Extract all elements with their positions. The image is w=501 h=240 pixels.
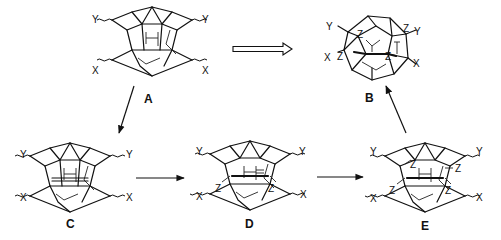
atom-label-z: Z [455, 164, 461, 174]
atom-label-z: Z [385, 52, 391, 62]
atom-label-x: X [300, 190, 307, 200]
atom-label-z: Z [215, 184, 221, 194]
arrow-e-to-b [386, 86, 406, 133]
atom-label-x: X [196, 192, 203, 202]
compound-label-e: E [421, 220, 429, 232]
compound-d-structure [190, 141, 305, 210]
arrow-a-to-b-open [233, 43, 292, 55]
atom-label-x: X [476, 193, 483, 203]
atom-label-x: X [202, 66, 209, 76]
atom-label-y: Y [202, 15, 209, 25]
arrow-a-to-c [119, 86, 134, 133]
atom-label-y: Y [196, 147, 203, 157]
atom-label-y: Y [414, 27, 421, 37]
compound-label-d: D [245, 218, 254, 230]
atom-label-y: Y [370, 147, 377, 157]
atom-label-x: X [370, 194, 377, 204]
atom-label-z: Z [445, 186, 451, 196]
atom-label-y: Y [20, 150, 27, 160]
atom-label-z: Z [268, 184, 274, 194]
atom-label-y: Y [92, 15, 99, 25]
atom-label-z: Z [357, 30, 363, 40]
atom-label-y: Y [326, 22, 333, 32]
atom-label-y: Y [476, 147, 483, 157]
compound-label-b: B [365, 92, 374, 104]
atom-label-x: X [413, 59, 420, 69]
atom-label-x: X [126, 193, 133, 203]
atom-label-y: Y [126, 150, 133, 160]
atom-label-z: Z [389, 186, 395, 196]
atom-label-z: Z [410, 160, 416, 170]
atom-label-x: X [20, 193, 27, 203]
compound-e-structure [365, 143, 480, 212]
compound-label-a: A [144, 93, 153, 105]
atom-label-y: Y [299, 147, 306, 157]
compound-label-c: C [66, 218, 75, 230]
compound-a-structure [97, 7, 207, 76]
atom-label-x: X [324, 53, 331, 63]
atom-label-z: Z [337, 52, 343, 62]
atom-label-z: Z [403, 24, 409, 34]
compound-c-structure [15, 143, 125, 212]
atom-label-x: X [92, 66, 99, 76]
reaction-scheme-canvas [0, 0, 501, 240]
